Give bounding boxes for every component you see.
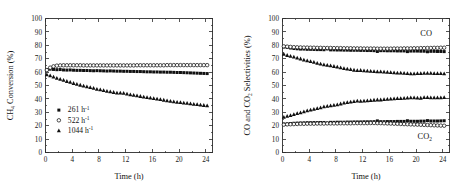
data-point [199,72,202,75]
y-tick-label: 20 [35,122,43,130]
series-1 [45,68,208,75]
data-point [369,98,373,102]
data-point [375,69,379,73]
data-point [69,68,72,71]
legend-label-3: 1044 h-1 [68,125,94,135]
legend-marker-2 [57,119,61,123]
data-point [395,71,399,75]
data-point [205,63,209,67]
x-tick-label: 12 [359,156,367,164]
data-point [342,66,346,70]
data-point [65,79,69,83]
data-point [62,78,66,82]
data-point [362,99,366,103]
y-tick-label: 0 [275,149,279,157]
data-point [168,99,172,103]
data-point [345,67,349,71]
data-point [165,98,169,102]
x-tick-label: 12 [122,156,130,164]
data-point [58,77,62,81]
data-point [365,98,369,102]
x-axis-title: Time (h) [114,172,143,181]
data-point [148,96,152,100]
data-point [436,50,439,53]
data-point [402,71,406,75]
data-point [419,71,423,75]
data-point [352,99,356,103]
y-tick-label: 70 [272,55,280,63]
data-point [122,91,126,95]
panel-left: 010203040506070809010004812162024Time (h… [0,0,237,190]
data-point [392,71,396,75]
data-point [392,97,396,101]
y-axis-title: CO and CO2 Selectivities (%) [243,35,253,135]
data-point [442,95,446,99]
plot-left: 010203040506070809010004812162024Time (h… [0,0,237,190]
data-point [409,96,413,100]
data-point [412,96,416,100]
data-point [75,82,79,86]
y-tick-label: 30 [35,109,43,117]
data-point [289,54,293,58]
data-point [405,96,409,100]
data-point [85,84,89,88]
data-point [436,120,439,123]
data-point [335,65,339,69]
annotation-1: CO [420,29,432,38]
data-point [439,95,443,99]
data-point [415,71,419,75]
data-point [99,69,102,72]
data-point [385,97,389,101]
data-point [389,70,393,74]
data-point [433,120,436,123]
data-point [406,50,409,53]
data-point [178,100,182,104]
data-point [355,68,359,72]
data-point [426,50,429,53]
data-point [102,88,106,92]
data-point [108,90,112,94]
data-point [422,71,426,75]
y-tick-label: 10 [35,136,43,144]
data-point [136,70,139,73]
data-point [435,95,439,99]
data-point [109,69,112,72]
data-point [442,124,446,128]
data-point [105,89,109,93]
data-point [196,72,199,75]
data-point [188,101,192,105]
data-point [55,68,58,71]
data-point [169,71,172,74]
data-point [309,59,313,63]
data-point [189,71,192,74]
data-point [172,71,175,74]
data-point [312,107,316,111]
data-point [129,70,132,73]
series-3 [45,72,209,107]
data-point [385,70,389,74]
y-tick-label: 60 [272,69,280,77]
data-point [413,120,416,123]
data-point [135,94,139,98]
data-point [139,70,142,73]
x-tick-label: 0 [281,156,285,164]
y-tick-label: 90 [272,29,280,37]
data-point [332,64,336,68]
data-point [335,102,339,106]
y-tick-label: 10 [272,136,280,144]
data-point [305,109,309,113]
y-tick-label: 80 [35,42,43,50]
data-point [319,62,323,66]
data-point [375,98,379,102]
y-tick-label: 100 [31,15,42,23]
data-point [65,69,68,72]
data-point [132,93,136,97]
data-point [419,120,422,123]
data-point [282,45,286,49]
data-point [206,72,209,75]
data-point [172,99,176,103]
data-point [389,97,393,101]
data-point [429,95,433,99]
data-point [292,112,296,116]
series-6 [282,95,446,119]
